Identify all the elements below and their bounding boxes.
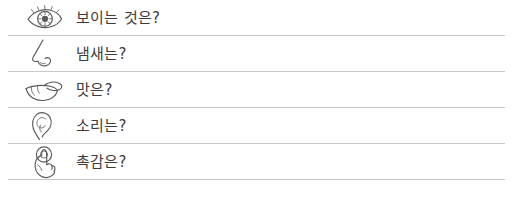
list-item[interactable]: 맛은? — [0, 72, 520, 108]
mouth-tongue-icon — [22, 73, 66, 107]
eye-icon — [22, 1, 66, 35]
list-item[interactable]: 촉감은? — [0, 144, 520, 180]
nose-icon — [22, 37, 66, 71]
list-item-label: 맛은? — [76, 82, 520, 99]
list-item[interactable]: 소리는? — [0, 108, 520, 144]
list-item-label: 소리는? — [76, 118, 520, 135]
hand-touch-icon — [22, 145, 66, 179]
list-item-label: 냄새는? — [76, 46, 520, 63]
ear-icon — [22, 109, 66, 143]
senses-list: 보이는 것은? 냄새는? — [0, 0, 520, 208]
list-item[interactable]: 보이는 것은? — [0, 0, 520, 36]
list-item-label: 보이는 것은? — [76, 10, 520, 27]
list-item-label: 촉감은? — [76, 154, 520, 171]
list-item[interactable]: 냄새는? — [0, 36, 520, 72]
